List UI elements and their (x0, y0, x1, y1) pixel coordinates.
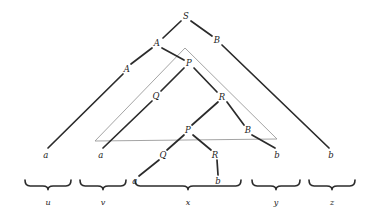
node-label-r-mid: R (219, 93, 226, 102)
node-label-a-left-edge: A (124, 65, 130, 74)
edge-s-a (163, 21, 181, 38)
leaf-label-leaf-b-2: b (274, 151, 280, 160)
brace-z (309, 180, 355, 190)
node-label-r-lower: R (212, 151, 219, 160)
edge-p-q (161, 68, 184, 91)
edge-a-leaf (48, 74, 123, 148)
diagram-root: SABAPQRPBQRaaabbbuvxyz (0, 0, 368, 217)
edge-r-b (227, 102, 244, 125)
edge-a-to-a (131, 48, 152, 64)
edge-pi-r (193, 135, 211, 150)
brace-label-brace-y: y (274, 199, 279, 207)
edge-q-a (139, 160, 159, 176)
edge-b-leaf (222, 45, 329, 148)
edge-r-p (192, 102, 218, 125)
brace-label-brace-x: x (186, 199, 191, 207)
node-label-b-upper-edge: B (214, 36, 220, 45)
leaf-label-leaf-b-1: b (215, 177, 221, 186)
edge-p-r (194, 68, 217, 92)
brace-u (25, 180, 71, 190)
node-label-q-lower: Q (159, 151, 166, 160)
leaf-label-leaf-b-3: b (328, 151, 334, 160)
brace-v (80, 180, 126, 190)
node-label-a-upper: A (154, 39, 160, 48)
brace-x (135, 180, 241, 190)
node-label-b-inner-edge: B (245, 126, 251, 135)
brace-label-brace-u: u (45, 199, 50, 207)
edge-s-b (191, 21, 212, 36)
brace-label-brace-v: v (101, 199, 106, 207)
edge-a-to-p (162, 48, 184, 60)
node-label-p-inner: P (185, 126, 191, 135)
leaf-label-leaf-a-3: a (132, 177, 137, 186)
node-label-q-mid: Q (152, 92, 159, 101)
node-label-p-upper: P (186, 59, 192, 68)
edge-r-b-vert (217, 160, 218, 175)
leaf-label-leaf-a-2: a (98, 151, 103, 160)
diagram-canvas (0, 0, 368, 217)
edge-b-leaf-2 (252, 135, 275, 148)
brace-y (252, 180, 300, 190)
node-label-s-root: S (183, 12, 189, 21)
edge-pi-q (167, 135, 184, 150)
leaf-label-leaf-a-1: a (43, 151, 48, 160)
brace-label-brace-z: z (330, 199, 334, 207)
